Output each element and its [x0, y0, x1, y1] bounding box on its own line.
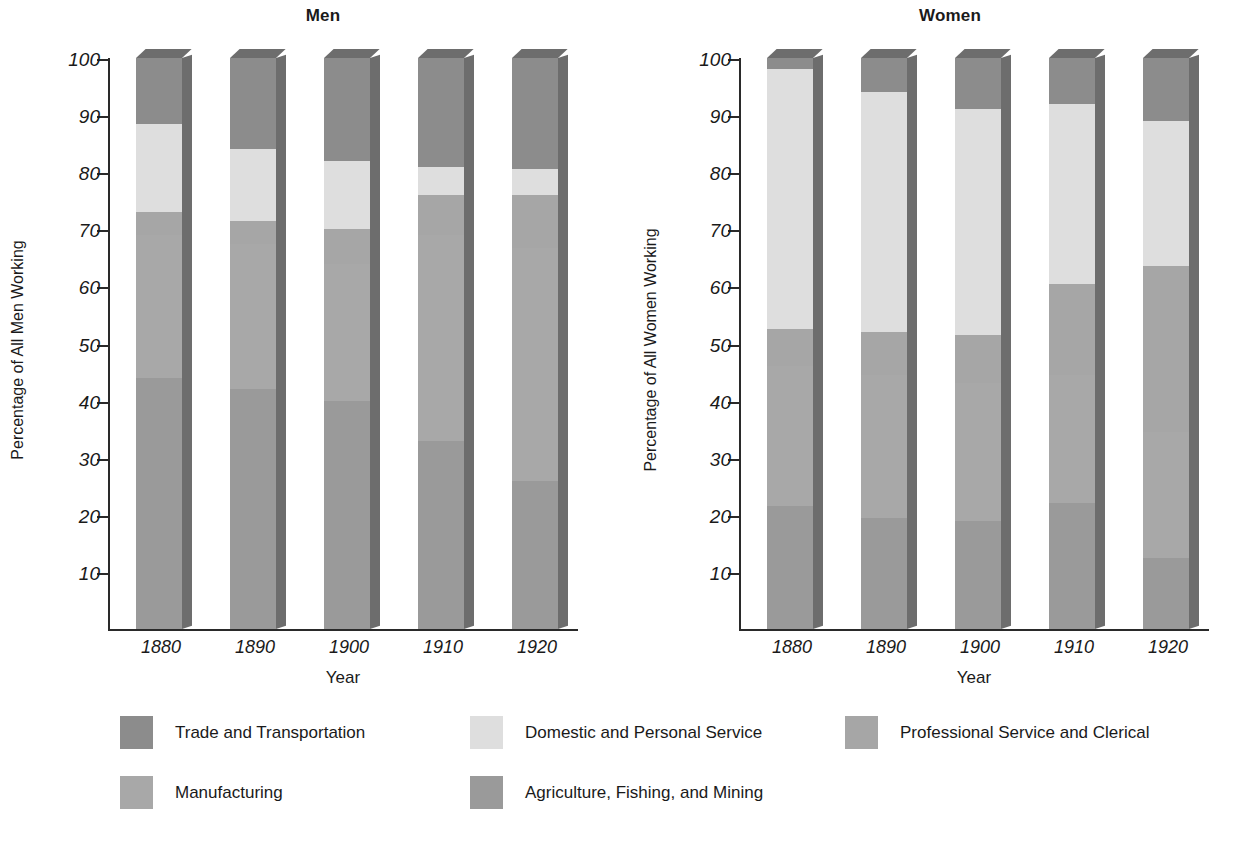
- bar-1920[interactable]: [512, 58, 558, 629]
- bar-segment: [1143, 432, 1189, 558]
- y-tick-label: 50: [710, 335, 731, 357]
- bar-1910[interactable]: [418, 58, 464, 629]
- bar-segment: [767, 69, 813, 329]
- bar-segment: [512, 58, 558, 169]
- legend-swatch: [470, 776, 503, 809]
- bar-segment: [512, 481, 558, 629]
- bar-segment: [1049, 58, 1095, 104]
- bar-segment: [418, 58, 464, 166]
- y-tick-label: 100: [699, 49, 731, 71]
- bar-1920[interactable]: [1143, 58, 1189, 629]
- bar-stack: [1049, 58, 1095, 629]
- y-axis-line-men: [108, 58, 110, 631]
- bar-segment: [1143, 58, 1189, 121]
- x-tick-label: 1910: [423, 637, 463, 658]
- y-tick-label: 100: [68, 49, 100, 71]
- legend-item[interactable]: Domestic and Personal Service: [470, 716, 762, 749]
- y-tick-label: 30: [79, 449, 100, 471]
- x-tick-label: 1890: [235, 637, 275, 658]
- y-tick-label: 80: [79, 163, 100, 185]
- legend-label: Trade and Transportation: [175, 723, 365, 743]
- x-tick-label: 1900: [329, 637, 369, 658]
- bar-stack: [230, 58, 276, 629]
- bar-top-face: [1143, 49, 1199, 58]
- panel-women: Women Percentage of All Women Working 10…: [627, 0, 1253, 700]
- bar-1900[interactable]: [324, 58, 370, 629]
- legend-item[interactable]: Trade and Transportation: [120, 716, 365, 749]
- legend-swatch: [470, 716, 503, 749]
- bar-1890[interactable]: [230, 58, 276, 629]
- bar-1880[interactable]: [767, 58, 813, 629]
- y-tick-label: 30: [710, 449, 731, 471]
- x-axis-line-women: [739, 629, 1209, 631]
- x-tick-label: 1880: [772, 637, 812, 658]
- bar-segment: [955, 109, 1001, 335]
- bar-stack: [861, 58, 907, 629]
- y-tick-label: 10: [79, 563, 100, 585]
- bar-top-face: [418, 49, 474, 58]
- bar-segment: [230, 221, 276, 244]
- bar-stack: [955, 58, 1001, 629]
- panel-men: Men Percentage of All Men Working 102030…: [0, 0, 626, 700]
- y-tick-label: 60: [79, 277, 100, 299]
- y-tick-label: 70: [710, 220, 731, 242]
- bar-side-face: [1001, 55, 1011, 629]
- y-tick-label: 40: [710, 392, 731, 414]
- bar-top-face: [512, 49, 568, 58]
- bar-top-face: [767, 49, 823, 58]
- legend-swatch: [845, 716, 878, 749]
- bar-segment: [767, 58, 813, 69]
- chart-legend: Trade and TransportationDomestic and Per…: [0, 706, 1253, 826]
- x-tick-label: 1880: [141, 637, 181, 658]
- legend-swatch: [120, 776, 153, 809]
- bar-segment: [512, 195, 558, 248]
- bar-side-face: [907, 55, 917, 629]
- y-tick-label: 10: [710, 563, 731, 585]
- y-tick-label: 40: [79, 392, 100, 414]
- bar-stack: [324, 58, 370, 629]
- bar-segment: [861, 518, 907, 629]
- bar-segment: [418, 195, 464, 235]
- bar-segment: [324, 264, 370, 401]
- bar-segment: [324, 401, 370, 629]
- x-tick-label: 1890: [866, 637, 906, 658]
- legend-item[interactable]: Agriculture, Fishing, and Mining: [470, 776, 763, 809]
- y-tick-label: 60: [710, 277, 731, 299]
- bar-segment: [1143, 558, 1189, 629]
- bar-segment: [230, 149, 276, 220]
- x-axis-line-men: [108, 629, 578, 631]
- panel-title-men: Men: [0, 6, 636, 26]
- bar-side-face: [370, 55, 380, 629]
- bar-segment: [1049, 375, 1095, 503]
- bar-1900[interactable]: [955, 58, 1001, 629]
- legend-item[interactable]: Professional Service and Clerical: [845, 716, 1149, 749]
- bar-side-face: [276, 55, 286, 629]
- bar-segment: [230, 389, 276, 629]
- bar-side-face: [182, 55, 192, 629]
- bar-top-face: [861, 49, 917, 58]
- bar-stack: [767, 58, 813, 629]
- legend-swatch: [120, 716, 153, 749]
- bar-top-face: [230, 49, 286, 58]
- bar-segment: [230, 58, 276, 149]
- legend-label: Agriculture, Fishing, and Mining: [525, 783, 763, 803]
- bar-1910[interactable]: [1049, 58, 1095, 629]
- bar-segment: [861, 375, 907, 518]
- bar-segment: [418, 441, 464, 629]
- x-tick-label: 1900: [960, 637, 1000, 658]
- x-axis-label-women: Year: [739, 668, 1209, 688]
- y-axis-label-women: Percentage of All Women Working: [642, 228, 660, 471]
- bar-stack: [136, 58, 182, 629]
- bar-segment: [136, 124, 182, 213]
- chart-panels: Men Percentage of All Men Working 102030…: [0, 0, 1253, 700]
- y-tick-label: 80: [710, 163, 731, 185]
- bar-1880[interactable]: [136, 58, 182, 629]
- x-axis-label-men: Year: [108, 668, 578, 688]
- y-tick-label: 20: [710, 506, 731, 528]
- legend-label: Professional Service and Clerical: [900, 723, 1149, 743]
- y-tick-label: 90: [710, 106, 731, 128]
- legend-item[interactable]: Manufacturing: [120, 776, 283, 809]
- bar-stack: [512, 58, 558, 629]
- bar-1890[interactable]: [861, 58, 907, 629]
- bar-segment: [955, 521, 1001, 629]
